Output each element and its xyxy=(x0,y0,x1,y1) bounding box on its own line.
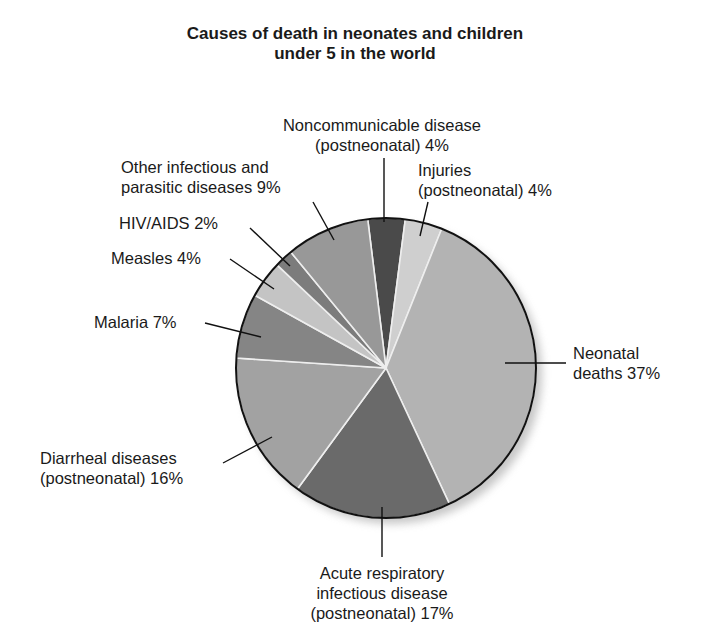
label-line: (postneonatal) 16% xyxy=(40,468,183,488)
label-line: parasitic diseases 9% xyxy=(121,177,281,197)
label-line: Diarrheal diseases xyxy=(40,448,183,468)
label-hiv-aids: HIV/AIDS 2% xyxy=(119,213,218,233)
label-acute-respiratory: Acute respiratory infectious disease (po… xyxy=(282,563,482,623)
label-line: Other infectious and xyxy=(121,157,281,177)
label-line: Injuries xyxy=(418,160,552,180)
label-line: Acute respiratory xyxy=(282,563,482,583)
pie-slices xyxy=(236,218,536,518)
label-other-infectious: Other infectious and parasitic diseases … xyxy=(121,157,281,197)
label-line: Neonatal xyxy=(573,343,660,363)
label-line: (postneonatal) 4% xyxy=(259,135,505,155)
label-injuries: Injuries (postneonatal) 4% xyxy=(418,160,552,200)
label-measles: Measles 4% xyxy=(111,248,201,268)
label-line: deaths 37% xyxy=(573,363,660,383)
label-noncommunicable: Noncommunicable disease (postneonatal) 4… xyxy=(259,115,505,155)
label-line: (postneonatal) 17% xyxy=(282,603,482,623)
label-malaria: Malaria 7% xyxy=(94,312,177,332)
label-line: Noncommunicable disease xyxy=(259,115,505,135)
label-diarrheal: Diarrheal diseases (postneonatal) 16% xyxy=(40,448,183,488)
label-line: (postneonatal) 4% xyxy=(418,180,552,200)
label-neonatal: Neonatal deaths 37% xyxy=(573,343,660,383)
label-line: infectious disease xyxy=(282,583,482,603)
